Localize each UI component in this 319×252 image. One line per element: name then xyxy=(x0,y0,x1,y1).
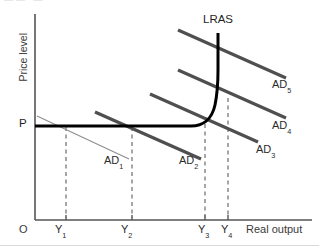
ad4-label-sub: 4 xyxy=(287,127,291,136)
lras-label: LRAS xyxy=(203,14,233,26)
origin-label: O xyxy=(19,224,28,235)
ad3-label-text: AD xyxy=(256,143,271,155)
ad4-label: AD4 xyxy=(272,120,291,133)
price-level-label: P xyxy=(19,118,27,130)
ad2-label-text: AD xyxy=(179,154,194,166)
ad5-label-text: AD xyxy=(272,78,287,90)
ad3-label: AD3 xyxy=(256,144,275,157)
ad5-curve xyxy=(178,30,286,78)
y-axis-title: Price level xyxy=(18,17,29,97)
y3-sub: 3 xyxy=(205,231,209,240)
y2-sub: 2 xyxy=(128,231,132,240)
x-tick-label-y4: Y4 xyxy=(221,224,232,237)
ad1-label: AD1 xyxy=(104,155,123,168)
ad2-curve xyxy=(95,112,201,159)
ad5-label: AD5 xyxy=(272,79,291,92)
page-divider-rule xyxy=(0,245,319,246)
ad5-label-sub: 5 xyxy=(287,86,291,95)
ad1-label-text: AD xyxy=(104,154,119,166)
ad1-label-sub: 1 xyxy=(119,162,123,171)
y4-sub: 4 xyxy=(228,231,232,240)
ad4-curve xyxy=(178,70,286,118)
x-tick-label-y1: Y1 xyxy=(55,224,66,237)
x-tick-label-y2: Y2 xyxy=(121,224,132,237)
ad2-label: AD2 xyxy=(179,155,198,168)
ad3-label-sub: 3 xyxy=(271,151,275,160)
x-axis-title: Real output xyxy=(246,224,302,235)
x-tick-label-y3: Y3 xyxy=(198,224,209,237)
y1-sub: 1 xyxy=(62,231,66,240)
economics-diagram: —— — Price level Real output LRAS AD5 AD… xyxy=(0,0,319,252)
ad4-label-text: AD xyxy=(272,119,287,131)
ad3-curve xyxy=(150,94,258,142)
ad2-label-sub: 2 xyxy=(194,162,198,171)
